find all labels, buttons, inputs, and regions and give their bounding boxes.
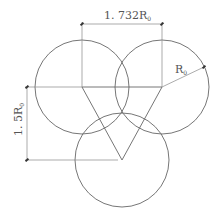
label-vertical-dim: 1. 5R0 xyxy=(12,103,25,136)
label-horizontal-dim: 1. 732R0 xyxy=(104,9,151,22)
label-radius: R0 xyxy=(175,63,187,76)
center-triangle xyxy=(82,87,162,160)
triangular-circles-diagram: 1. 732R0 R0 1. 5R0 xyxy=(0,0,224,216)
